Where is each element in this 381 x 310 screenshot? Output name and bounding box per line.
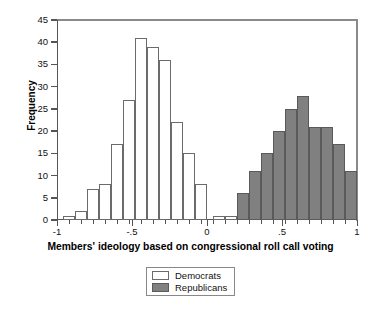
- x-axis-title: Members' ideology based on congressional…: [0, 241, 381, 252]
- legend-label: Democrats: [175, 271, 221, 281]
- y-tick-label: 40: [8, 37, 48, 47]
- histogram-bar-dem: [183, 153, 195, 220]
- y-tick-label: 45: [8, 15, 48, 25]
- y-tick-label: 25: [8, 104, 48, 114]
- x-minor-tick: [321, 220, 322, 224]
- x-minor-tick: [309, 220, 310, 224]
- histogram-bar-dem: [147, 47, 159, 220]
- y-tick-label: 10: [8, 171, 48, 181]
- histogram-bar-dem: [123, 100, 135, 220]
- histogram-bar-rep: [249, 171, 261, 220]
- histogram-bar-rep: [345, 171, 357, 220]
- x-minor-tick: [225, 220, 226, 224]
- legend: DemocratsRepublicans: [146, 267, 235, 296]
- x-minor-tick: [165, 220, 166, 224]
- x-tick-label: .5: [262, 226, 302, 237]
- histogram-bar-dem: [87, 189, 99, 220]
- y-tick: [51, 41, 57, 43]
- x-tick-label: 0: [187, 226, 227, 237]
- y-tick-label: 35: [8, 59, 48, 69]
- x-minor-tick: [93, 220, 94, 224]
- histogram-bar-rep: [285, 109, 297, 220]
- x-minor-tick: [69, 220, 70, 224]
- histogram-bar-rep: [321, 127, 333, 220]
- y-tick: [51, 197, 57, 199]
- histogram-bar-dem: [111, 144, 123, 220]
- x-minor-tick: [285, 220, 286, 224]
- x-tick-label: -.5: [112, 226, 152, 237]
- x-minor-tick: [153, 220, 154, 224]
- x-tick-label: 1: [337, 226, 377, 237]
- histogram-bar-rep: [273, 131, 285, 220]
- democrat-swatch: [152, 271, 169, 280]
- legend-label: Republicans: [175, 283, 227, 293]
- x-minor-tick: [189, 220, 190, 224]
- x-minor-tick: [261, 220, 262, 224]
- y-tick-label: 15: [8, 148, 48, 158]
- x-minor-tick: [249, 220, 250, 224]
- republican-swatch: [152, 283, 169, 292]
- histogram-bar-dem: [99, 184, 111, 220]
- x-minor-tick: [345, 220, 346, 224]
- y-tick: [51, 108, 57, 110]
- y-tick: [51, 130, 57, 132]
- x-minor-tick: [105, 220, 106, 224]
- y-tick: [51, 19, 57, 21]
- histogram-bar-rep: [333, 144, 345, 220]
- y-tick-label: 5: [8, 193, 48, 203]
- x-minor-tick: [129, 220, 130, 224]
- y-tick: [51, 175, 57, 177]
- y-tick-label: 0: [8, 215, 48, 225]
- x-minor-tick: [213, 220, 214, 224]
- y-tick: [51, 153, 57, 155]
- x-minor-tick: [81, 220, 82, 224]
- legend-item: Republicans: [152, 283, 227, 293]
- histogram-bar-dem: [225, 216, 237, 220]
- bars-container: [57, 20, 357, 220]
- histogram-bar-dem: [195, 184, 207, 220]
- x-minor-tick: [273, 220, 274, 224]
- x-tick-label: -1: [37, 226, 77, 237]
- histogram-bar-dem: [159, 60, 171, 220]
- y-tick-label: 30: [8, 82, 48, 92]
- legend-item: Democrats: [152, 271, 227, 281]
- histogram-bar-rep: [237, 193, 249, 220]
- histogram-bar-dem: [213, 216, 225, 220]
- x-minor-tick: [237, 220, 238, 224]
- histogram-bar-rep: [309, 127, 321, 220]
- histogram-bar-dem: [171, 122, 183, 220]
- histogram-bar-dem: [75, 211, 87, 220]
- histogram-bar-rep: [297, 96, 309, 220]
- y-tick-label: 20: [8, 126, 48, 136]
- y-tick: [51, 64, 57, 66]
- x-minor-tick: [297, 220, 298, 224]
- histogram-bar-rep: [261, 153, 273, 220]
- histogram-figure: Frequency Members' ideology based on con…: [0, 0, 381, 310]
- y-tick: [51, 86, 57, 88]
- histogram-bar-dem: [135, 38, 147, 220]
- x-minor-tick: [333, 220, 334, 224]
- x-minor-tick: [141, 220, 142, 224]
- x-minor-tick: [177, 220, 178, 224]
- x-minor-tick: [201, 220, 202, 224]
- x-minor-tick: [117, 220, 118, 224]
